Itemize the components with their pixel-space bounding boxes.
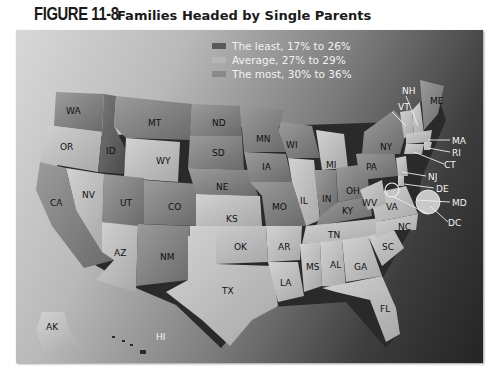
label-AR: AR [278, 242, 290, 252]
label-LA: LA [280, 278, 292, 288]
legend-item-most: The most, 30% to 36% [212, 67, 352, 81]
map-frame: WA OR CA NV ID MT WY UT CO AZ NM ND SD N… [16, 30, 483, 363]
legend-item-least: The least, 17% to 26% [212, 39, 352, 53]
label-MO: MO [272, 202, 287, 212]
label-MS: MS [306, 262, 320, 272]
label-WY: WY [156, 156, 171, 166]
label-NY: NY [380, 142, 393, 152]
label-OH: OH [346, 186, 360, 196]
label-MD: MD [452, 198, 467, 208]
legend-label-least: The least, 17% to 26% [232, 39, 351, 53]
label-IA: IA [262, 162, 272, 172]
label-VA: VA [386, 202, 399, 212]
label-NV: NV [82, 190, 96, 200]
label-OR: OR [60, 142, 73, 152]
label-NE: NE [216, 182, 229, 192]
label-TX: TX [221, 286, 234, 296]
label-ID: ID [106, 146, 116, 156]
label-SD: SD [212, 148, 225, 158]
label-NH: NH [402, 86, 416, 96]
label-IN: IN [322, 194, 331, 204]
label-VT: VT [398, 102, 410, 112]
state-DE[interactable] [398, 176, 404, 186]
figure-number: FIGURE 11-8 [34, 3, 119, 25]
label-WI: WI [286, 140, 298, 150]
label-RI: RI [452, 148, 461, 158]
label-SC: SC [382, 242, 394, 252]
label-KS: KS [226, 214, 238, 224]
figure-title: FIGURE 11-8 Families Headed by Single Pa… [34, 3, 143, 25]
label-UT: UT [120, 198, 133, 208]
label-DC: DC [448, 218, 461, 228]
label-ME: ME [430, 96, 444, 106]
label-AL: AL [330, 260, 341, 270]
map-legend: The least, 17% to 26% Average, 27% to 29… [212, 39, 352, 81]
label-MI: MI [326, 160, 336, 170]
state-WY[interactable] [124, 138, 180, 182]
label-OK: OK [234, 242, 248, 252]
label-CT: CT [444, 160, 456, 170]
label-MN: MN [256, 134, 271, 144]
label-CO: CO [168, 202, 181, 212]
label-NM: NM [160, 252, 175, 262]
label-MT: MT [148, 118, 162, 128]
legend-swatch-average [212, 57, 226, 63]
label-CA: CA [50, 198, 63, 208]
legend-swatch-most [212, 71, 226, 77]
label-FL: FL [380, 304, 390, 314]
label-NC: NC [398, 222, 411, 232]
label-WV: WV [362, 198, 378, 208]
label-KY: KY [342, 206, 354, 216]
state-HI[interactable] [112, 336, 146, 354]
label-ND: ND [212, 118, 226, 128]
label-PA: PA [366, 162, 378, 172]
legend-label-most: The most, 30% to 36% [232, 67, 352, 81]
label-MA: MA [452, 136, 467, 146]
label-DE: DE [436, 184, 449, 194]
figure-caption: Families Headed by Single Parents [117, 8, 371, 23]
label-WA: WA [66, 106, 81, 116]
label-IL: IL [300, 196, 308, 206]
state-AK[interactable] [36, 312, 86, 352]
label-NJ: NJ [428, 172, 437, 182]
label-TN: TN [327, 230, 340, 240]
label-AK: AK [46, 322, 59, 332]
legend-label-average: Average, 27% to 29% [232, 53, 346, 67]
label-GA: GA [354, 262, 368, 272]
legend-item-average: Average, 27% to 29% [212, 53, 352, 67]
legend-swatch-least [212, 43, 226, 49]
label-HI: HI [156, 332, 165, 342]
label-AZ: AZ [114, 248, 126, 258]
state-CT[interactable] [404, 144, 424, 154]
